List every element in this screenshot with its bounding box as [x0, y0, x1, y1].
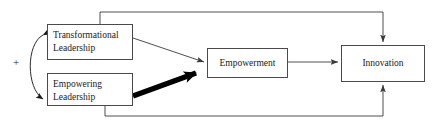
- correlation-plus-sign: +: [9, 55, 23, 69]
- edge-transformational-to-innovation: [100, 12, 383, 42]
- node-empowerment-label: Empowerment: [220, 57, 276, 70]
- node-empowerment: Empowerment: [207, 48, 288, 78]
- node-transformational-leadership: Transformational Leadership: [47, 24, 133, 60]
- node-innovation: Innovation: [341, 45, 425, 82]
- conceptual-model-diagram: + Transformational Leadership Empowering…: [0, 0, 439, 131]
- node-empowering-leadership-label: Empowering Leadership: [53, 78, 132, 103]
- edge-transformational-to-empowerment: [133, 38, 204, 62]
- node-innovation-label: Innovation: [362, 57, 403, 70]
- edge-empowering-to-empowerment: [133, 73, 196, 96]
- node-transformational-leadership-label: Transformational Leadership: [53, 29, 132, 54]
- node-empowering-leadership: Empowering Leadership: [47, 73, 133, 106]
- edge-correlation-curve: [30, 35, 43, 99]
